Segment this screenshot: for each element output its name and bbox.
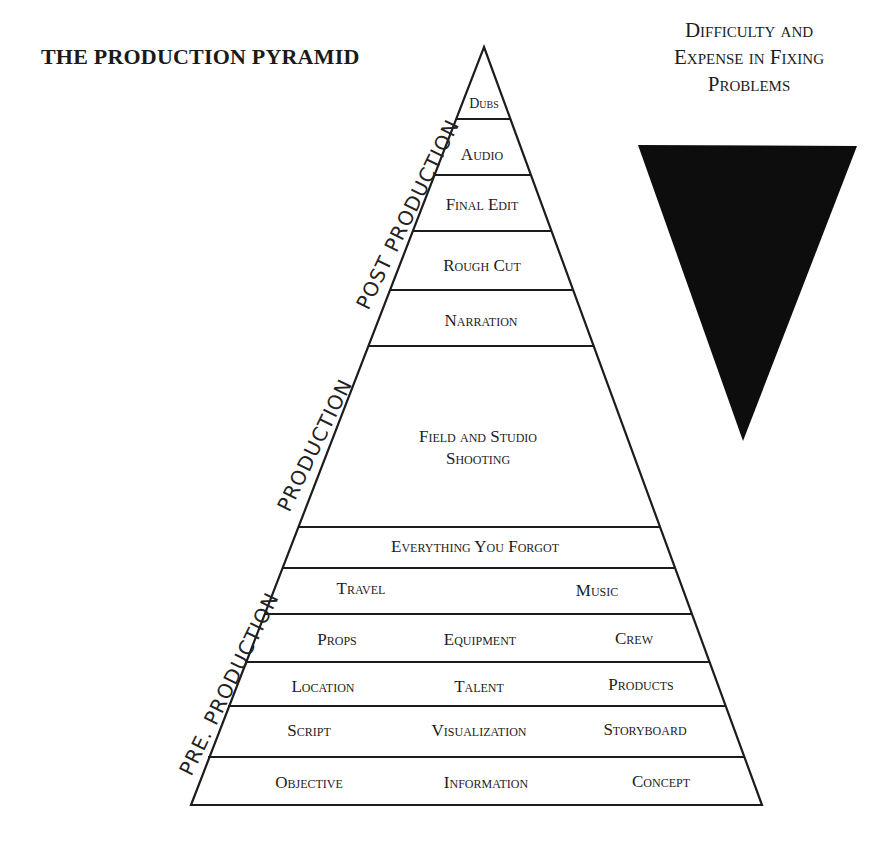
difficulty-line-1: Difficulty and — [640, 17, 858, 44]
tier-location: Location — [291, 676, 354, 698]
difficulty-line-3: Problems — [640, 71, 858, 98]
difficulty-triangle — [638, 145, 857, 441]
tier-final-edit: Final Edit — [446, 194, 519, 216]
difficulty-expense-label: Difficulty and Expense in Fixing Problem… — [640, 17, 858, 98]
difficulty-line-2: Expense in Fixing — [640, 44, 858, 71]
tier-storyboard: Storyboard — [603, 719, 686, 741]
tier-talent: Talent — [454, 676, 504, 698]
tier-dubs: Dubs — [469, 93, 499, 115]
tier-audio: Audio — [461, 144, 503, 166]
tier-information: Information — [444, 772, 528, 794]
tier-equipment: Equipment — [444, 629, 516, 651]
shooting-line-2: Shooting — [419, 448, 537, 470]
tier-everything-you-forgot: Everything You Forgot — [391, 536, 559, 558]
production-pyramid-diagram: THE PRODUCTION PYRAMID Difficulty and Ex… — [0, 0, 894, 853]
tier-rough-cut: Rough Cut — [443, 255, 521, 277]
tier-narration: Narration — [445, 310, 518, 332]
diagram-title: THE PRODUCTION PYRAMID — [41, 44, 360, 70]
tier-visualization: Visualization — [432, 720, 527, 742]
tier-objective: Objective — [275, 772, 343, 794]
tier-script: Script — [287, 720, 330, 742]
shooting-line-1: Field and Studio — [419, 426, 537, 448]
tier-concept: Concept — [632, 771, 690, 793]
tier-field-studio-shooting: Field and Studio Shooting — [419, 426, 537, 470]
tier-crew: Crew — [615, 628, 653, 650]
tier-travel: Travel — [337, 578, 386, 600]
tier-products: Products — [608, 674, 673, 696]
tier-props: Props — [317, 629, 356, 651]
tier-music: Music — [576, 580, 618, 602]
